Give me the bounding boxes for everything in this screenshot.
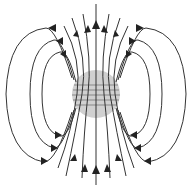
magnetic-dipole-diagram xyxy=(0,0,191,189)
arrow-up-icon xyxy=(92,165,100,174)
arrow-left-icon xyxy=(134,144,141,152)
diagram-canvas xyxy=(0,0,191,189)
arrow-right-icon xyxy=(136,24,144,32)
arrow-right-icon xyxy=(126,50,132,58)
arrow-left-icon xyxy=(60,50,66,58)
arrow-left-icon xyxy=(48,24,56,32)
arrow-right-icon xyxy=(41,157,48,165)
arrow-up-icon xyxy=(115,154,122,161)
arrow-up-icon xyxy=(70,154,77,161)
arrow-left-icon xyxy=(130,131,137,139)
arrow-left-icon xyxy=(144,157,151,165)
arrow-up-icon xyxy=(92,20,100,29)
arrow-right-icon xyxy=(51,144,58,152)
arrow-right-icon xyxy=(55,131,62,139)
